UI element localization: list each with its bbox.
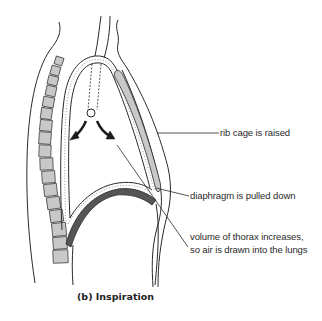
- airflow-arrows: [70, 121, 115, 140]
- label-volume-2: so air is drawn into the lungs: [190, 244, 307, 256]
- chest-wall-outer: [117, 20, 171, 287]
- diaphragm: [66, 189, 156, 247]
- abdomen-back: [72, 245, 73, 285]
- label-diaphragm: diaphragm is pulled down: [190, 190, 295, 202]
- trachea-dashed-right: [97, 64, 101, 110]
- thorax-diagram: [0, 0, 322, 321]
- label-volume-1: volume of thorax increases,: [190, 231, 303, 243]
- pleural-fluid: [65, 59, 154, 224]
- spine: [39, 56, 69, 263]
- trachea-outer-right: [104, 16, 110, 58]
- figure-caption: (b) Inspiration: [77, 291, 154, 302]
- abdomen-front: [155, 204, 158, 285]
- trachea-outer-left: [95, 16, 101, 56]
- rib-cage: [114, 70, 160, 191]
- airway-opening: [87, 109, 95, 117]
- trachea-dashed-left: [88, 64, 92, 110]
- label-rib-cage: rib cage is raised: [220, 127, 290, 139]
